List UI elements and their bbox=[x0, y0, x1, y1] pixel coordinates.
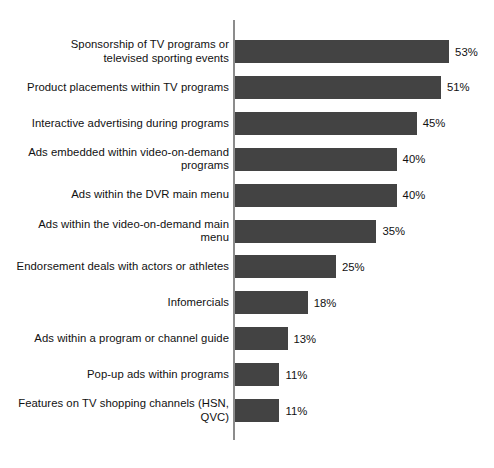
bar-fill bbox=[235, 220, 376, 243]
bar-row: Pop-up ads within programs11% bbox=[0, 357, 494, 393]
bar-fill bbox=[235, 255, 336, 278]
bar-category-label: Product placements within TV programs bbox=[14, 69, 229, 105]
bar-value-label: 51% bbox=[447, 76, 470, 99]
bar-value-label: 40% bbox=[403, 148, 426, 171]
bar-category-label: Endorsement deals with actors or athlete… bbox=[14, 249, 229, 285]
bar-value-label: 11% bbox=[285, 363, 307, 386]
bar-value-label: 40% bbox=[403, 184, 426, 207]
bar bbox=[235, 148, 397, 171]
bar bbox=[235, 112, 417, 135]
bar-fill bbox=[235, 291, 308, 314]
bar-fill bbox=[235, 148, 397, 171]
bar-fill bbox=[235, 184, 397, 207]
bar-fill bbox=[235, 399, 279, 422]
bar-fill bbox=[235, 112, 417, 135]
bar-row: Sponsorship of TV programs or televised … bbox=[0, 34, 494, 70]
bar-row: Endorsement deals with actors or athlete… bbox=[0, 249, 494, 285]
bar-value-label: 35% bbox=[382, 220, 405, 243]
bar bbox=[235, 327, 288, 350]
bar-category-label: Ads embedded within video-on-demand prog… bbox=[14, 141, 229, 177]
bar bbox=[235, 399, 279, 422]
bar-row: Infomercials18% bbox=[0, 285, 494, 321]
bar-fill bbox=[235, 327, 288, 350]
bar-row: Product placements within TV programs51% bbox=[0, 69, 494, 105]
bar-category-label: Ads within the DVR main menu bbox=[14, 177, 229, 213]
bar-category-label: Ads within the video-on-demand main menu bbox=[14, 213, 229, 249]
bar bbox=[235, 184, 397, 207]
bars-container: Sponsorship of TV programs or televised … bbox=[0, 0, 494, 468]
bar-category-label: Ads within a program or channel guide bbox=[14, 321, 229, 357]
bar bbox=[235, 76, 441, 99]
bar-fill bbox=[235, 40, 449, 63]
bar-chart: Sponsorship of TV programs or televised … bbox=[0, 0, 494, 468]
bar-row: Ads within a program or channel guide13% bbox=[0, 321, 494, 357]
bar-category-label: Features on TV shopping channels (HSN, Q… bbox=[14, 393, 229, 429]
bar-fill bbox=[235, 76, 441, 99]
bar-value-label: 53% bbox=[455, 40, 478, 63]
bar bbox=[235, 255, 336, 278]
bar-row: Ads within the video-on-demand main menu… bbox=[0, 213, 494, 249]
bar-category-label: Infomercials bbox=[14, 285, 229, 321]
bar-value-label: 18% bbox=[314, 291, 337, 314]
bar-row: Features on TV shopping channels (HSN, Q… bbox=[0, 393, 494, 429]
bar-row: Ads embedded within video-on-demand prog… bbox=[0, 141, 494, 177]
bar bbox=[235, 363, 279, 386]
bar-category-label: Interactive advertising during programs bbox=[14, 105, 229, 141]
bar-value-label: 45% bbox=[423, 112, 446, 135]
bar bbox=[235, 291, 308, 314]
bar-value-label: 25% bbox=[342, 255, 365, 278]
bar-row: Ads within the DVR main menu40% bbox=[0, 177, 494, 213]
bar-value-label: 11% bbox=[285, 399, 307, 422]
bar-category-label: Pop-up ads within programs bbox=[14, 357, 229, 393]
bar-category-label: Sponsorship of TV programs or televised … bbox=[14, 34, 229, 70]
bar-row: Interactive advertising during programs4… bbox=[0, 105, 494, 141]
bar-value-label: 13% bbox=[294, 327, 317, 350]
bar-fill bbox=[235, 363, 279, 386]
bar bbox=[235, 40, 449, 63]
bar bbox=[235, 220, 376, 243]
